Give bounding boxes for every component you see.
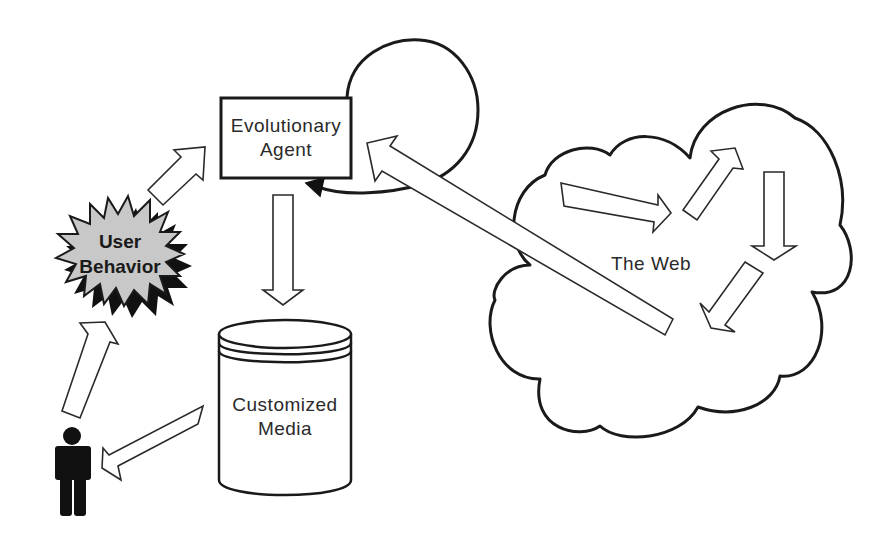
agent-label-line2: Agent [260, 139, 312, 160]
behavior-to-agent-arrow-icon [148, 147, 205, 205]
agent-to-media-arrow-icon [263, 195, 303, 305]
media-label-line1: Customized [232, 394, 337, 415]
web-arrow-down-icon [752, 172, 796, 260]
web-internal-arrows [561, 148, 796, 332]
evolutionary-agent-node[interactable]: Evolutionary Agent [221, 98, 351, 178]
web-arrow-down-left-icon [700, 262, 763, 332]
the-web-node[interactable]: The Web [490, 104, 851, 437]
web-label: The Web [611, 253, 691, 274]
user-to-behavior-arrow-icon [62, 322, 118, 418]
media-to-user-arrow-icon [102, 406, 203, 480]
media-label-line2: Media [258, 418, 312, 439]
user-behavior-node[interactable]: User Behavior [56, 196, 192, 318]
web-arrow-right-icon [561, 183, 671, 232]
behavior-label-line2: Behavior [79, 256, 161, 277]
web-arrow-up-right-icon [683, 148, 743, 220]
customized-media-node[interactable]: Customized Media [219, 320, 351, 495]
behavior-label-line1: User [99, 231, 142, 252]
web-to-agent-arrow-icon [367, 136, 673, 335]
self-loop-arrowhead-icon [306, 178, 324, 196]
user-person-icon[interactable] [55, 427, 91, 516]
agent-label-line1: Evolutionary [231, 115, 342, 136]
diagram-canvas: Evolutionary Agent The Web Customized Me… [0, 0, 886, 552]
